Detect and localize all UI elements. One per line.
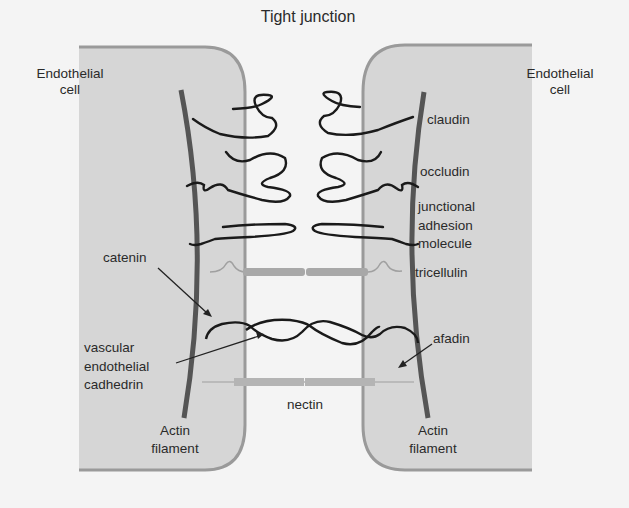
right-cell-label: Endothelial cell — [510, 66, 610, 97]
tricellulin-label: tricellulin — [415, 265, 468, 281]
right-endothelial-cell — [363, 45, 532, 470]
tight-junction-diagram: Tight junction Endothelial cell Endothel… — [0, 0, 629, 508]
left-cell-label: Endothelial cell — [20, 66, 120, 97]
ve-cadherin-label: vascular endothelial cadhedrin — [84, 340, 149, 393]
occludin-label: occludin — [420, 164, 470, 180]
left-actin-label: Actin filament — [135, 423, 215, 456]
claudin-label: claudin — [427, 112, 470, 128]
diagram-title: Tight junction — [228, 9, 388, 25]
nectin-label: nectin — [270, 397, 340, 413]
right-cell-label-line1: Endothelial — [510, 66, 610, 82]
jam-label: junctional adhesion molecule — [418, 199, 475, 252]
left-cell-label-line2: cell — [20, 82, 120, 98]
catenin-label: catenin — [103, 250, 147, 266]
afadin-label: afadin — [433, 331, 470, 347]
right-actin-label: Actin filament — [393, 423, 473, 456]
left-cell-label-line1: Endothelial — [20, 66, 120, 82]
right-cell-label-line2: cell — [510, 82, 610, 98]
